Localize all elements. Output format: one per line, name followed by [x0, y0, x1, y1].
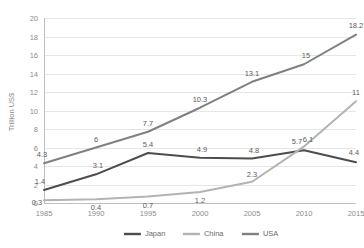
- data-label-japan-1990: 3.1: [93, 161, 103, 170]
- x-tick-label: 1995: [140, 209, 157, 218]
- data-label-usa-2015: 18.2: [349, 21, 364, 30]
- data-label-japan-2015: 4.4: [349, 148, 359, 157]
- y-tick-label: 10: [30, 107, 38, 116]
- data-label-china-2000: 1.2: [195, 196, 205, 205]
- data-label-japan-2000: 4.9: [197, 145, 207, 154]
- chart-canvas: 02468101214161820 Trillion US$ 198519901…: [0, 0, 364, 248]
- data-label-china-1995: 0.7: [143, 201, 153, 210]
- y-tick-label: 12: [30, 88, 38, 97]
- legend-label-china[interactable]: China: [204, 229, 224, 238]
- data-label-china-1985: 0.3: [32, 198, 42, 207]
- data-label-usa-2005: 13.1: [245, 69, 260, 78]
- y-tick-label: 18: [30, 33, 38, 42]
- data-label-japan-2005: 4.8: [249, 146, 259, 155]
- data-label-usa-1990: 6: [94, 135, 98, 144]
- series-line-japan: [44, 150, 356, 190]
- y-axis-title: Trillion US$: [7, 92, 16, 131]
- data-label-japan-2010: 5.7: [292, 137, 302, 146]
- x-tick-label: 2015: [348, 209, 364, 218]
- data-label-usa-1985: 4.3: [37, 150, 47, 159]
- legend-label-usa[interactable]: USA: [263, 229, 278, 238]
- chart-legend: JapanChinaUSA: [124, 229, 278, 238]
- x-tick-label: 2010: [296, 209, 313, 218]
- y-tick-label: 14: [30, 70, 38, 79]
- y-tick-label: 8: [34, 125, 38, 134]
- legend-label-japan[interactable]: Japan: [145, 229, 165, 238]
- data-label-japan-1985: 1.4: [35, 177, 45, 186]
- data-label-china-2005: 2.3: [247, 170, 257, 179]
- y-tick-label: 20: [30, 14, 38, 23]
- data-label-china-2015: 11: [352, 88, 360, 97]
- y-tick-label: 16: [30, 51, 38, 60]
- x-tick-label: 2005: [244, 209, 261, 218]
- line-chart: 02468101214161820 Trillion US$ 198519901…: [0, 0, 364, 248]
- y-tick-label: 4: [34, 162, 38, 171]
- data-label-usa-2010: 15: [302, 51, 310, 60]
- x-tick-label: 1985: [36, 209, 53, 218]
- x-axis-tick-labels: 1985199019952000200520102015: [36, 209, 364, 218]
- data-label-china-2010: 6.1: [303, 135, 313, 144]
- x-tick-label: 2000: [192, 209, 209, 218]
- data-label-japan-1995: 5.4: [143, 140, 153, 149]
- y-axis-title-group: Trillion US$: [7, 92, 16, 131]
- data-label-usa-2000: 10.3: [193, 95, 208, 104]
- data-label-usa-1995: 7.7: [143, 119, 153, 128]
- data-point-labels: 1.43.15.44.94.85.74.40.30.40.71.22.36.11…: [32, 21, 364, 213]
- data-label-china-1990: 0.4: [91, 203, 101, 212]
